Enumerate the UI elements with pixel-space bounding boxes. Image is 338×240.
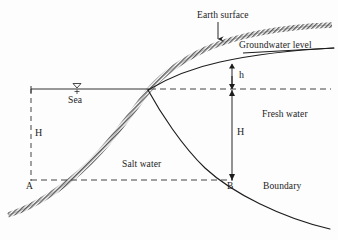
sea-level-line bbox=[31, 86, 149, 93]
h-right-label: H bbox=[237, 127, 244, 137]
h-left-label: H bbox=[35, 128, 42, 138]
h-right-dimension-arrow bbox=[229, 90, 235, 181]
groundwater-level-label: Groundwater level bbox=[239, 41, 312, 51]
fresh-water-label: Fresh water bbox=[262, 110, 308, 120]
salt-water-label: Salt water bbox=[122, 160, 161, 170]
diagram-figure: Earth surface Groundwater level Sea h H … bbox=[0, 0, 338, 240]
h-small-dimension-arrow bbox=[229, 64, 235, 90]
point-a-label: A bbox=[26, 182, 33, 192]
h-small-label: h bbox=[239, 70, 244, 80]
sea-label: Sea bbox=[68, 96, 82, 106]
cross-section-svg bbox=[0, 0, 338, 240]
point-b-label: B bbox=[227, 182, 233, 192]
earth-surface-label: Earth surface bbox=[197, 11, 249, 21]
boundary-label: Boundary bbox=[263, 182, 301, 192]
